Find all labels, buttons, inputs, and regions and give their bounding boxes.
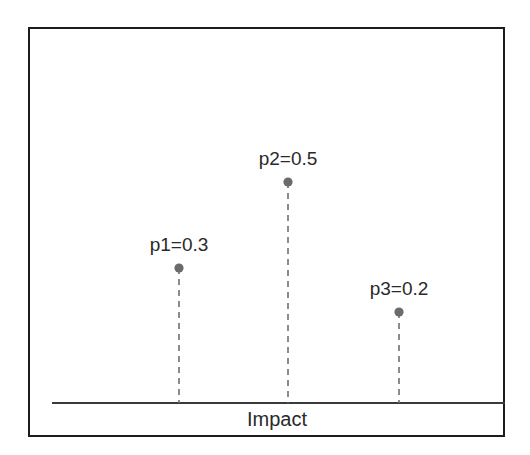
x-axis-label: Impact xyxy=(247,408,307,431)
point-label-p3: p3=0.2 xyxy=(370,278,429,300)
figure-root: p1=0.3 p2=0.5 p3=0.2 Impact xyxy=(0,0,530,455)
point-label-p1: p1=0.3 xyxy=(150,234,209,256)
point-label-p2: p2=0.5 xyxy=(259,148,318,170)
plot-frame xyxy=(28,27,505,437)
